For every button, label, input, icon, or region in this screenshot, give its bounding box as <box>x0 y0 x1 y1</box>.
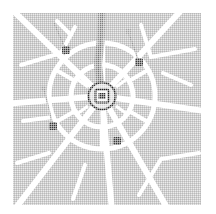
marker-poi-southwest[interactable] <box>49 122 57 130</box>
map-screenshot: City Center Radial Plan Point of interes… <box>0 0 216 214</box>
marker-poi-northwest[interactable] <box>62 46 70 54</box>
map-viewport[interactable] <box>13 13 201 205</box>
central-landmark-marker[interactable] <box>89 83 116 110</box>
map-title: City Center Radial Plan <box>0 0 1 1</box>
marker-poi-west[interactable] <box>41 86 46 91</box>
marker-poi-south[interactable] <box>113 137 121 145</box>
marker-poi-northeast[interactable] <box>126 29 131 34</box>
marker-poi-east[interactable] <box>135 58 143 66</box>
landmark-inner-glyph <box>99 93 106 99</box>
map-metadata: City Center Radial Plan Point of interes… <box>0 0 1 1</box>
map-canvas[interactable] <box>13 13 201 205</box>
